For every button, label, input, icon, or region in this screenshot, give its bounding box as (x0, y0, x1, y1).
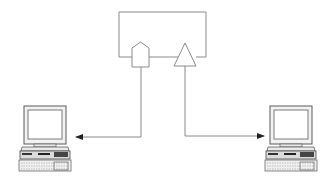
network-diagram (0, 0, 335, 176)
connector-left-arrow (76, 67, 141, 137)
connector-right-arrow (185, 66, 264, 136)
computer-left-icon (19, 106, 71, 171)
pentagon-port-icon (132, 42, 149, 67)
computer-right-icon (265, 106, 317, 171)
triangle-port-icon (174, 43, 196, 66)
